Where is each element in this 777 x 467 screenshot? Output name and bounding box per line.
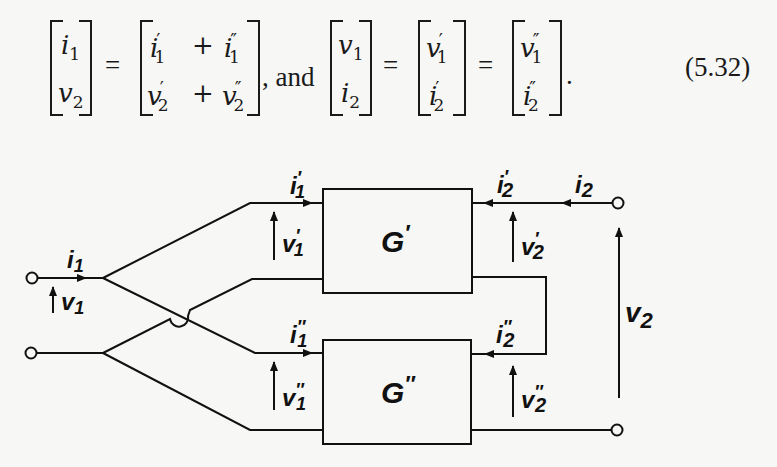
label-v1: v1	[61, 288, 84, 318]
terminal-port1-top	[27, 273, 38, 284]
label-i1-dprime: i″1	[290, 317, 307, 351]
label-i2: i2	[575, 171, 593, 201]
series-parallel-circuit: G′ G″ i1 v1 i′1 v′1 i″1 v″1 i′2 i2 v′2 i…	[0, 0, 777, 467]
terminal-port2-bottom	[612, 425, 623, 436]
label-v1-prime: v′1	[282, 226, 304, 260]
label-g-prime: G′	[381, 220, 411, 258]
label-v1-dprime: v″1	[282, 380, 306, 414]
label-v2-prime: v′2	[521, 229, 544, 263]
label-i1-prime: i′1	[290, 168, 305, 202]
label-i2-dprime: i″2	[496, 317, 514, 351]
label-v2-dprime: v″2	[521, 382, 546, 416]
terminal-port1-bottom	[26, 348, 37, 359]
label-i1: i1	[67, 246, 84, 276]
terminal-port2-top	[613, 198, 624, 209]
label-v2: v2	[625, 297, 654, 333]
label-g-dprime: G″	[381, 371, 416, 409]
label-i2-prime: i′2	[497, 167, 513, 201]
